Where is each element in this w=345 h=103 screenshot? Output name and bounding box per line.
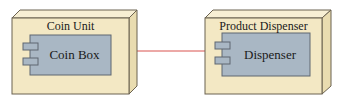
node-label-product-dispenser: Product Dispenser <box>205 19 322 34</box>
component-port-icon <box>23 43 38 50</box>
component-port-icon <box>23 58 38 65</box>
component-label-coin-box: Coin Box <box>38 47 111 63</box>
component-port-icon <box>215 42 230 49</box>
component-port-icon <box>215 57 230 64</box>
node-label-coin-unit: Coin Unit <box>12 19 129 34</box>
component-label-dispenser: Dispenser <box>230 47 310 63</box>
